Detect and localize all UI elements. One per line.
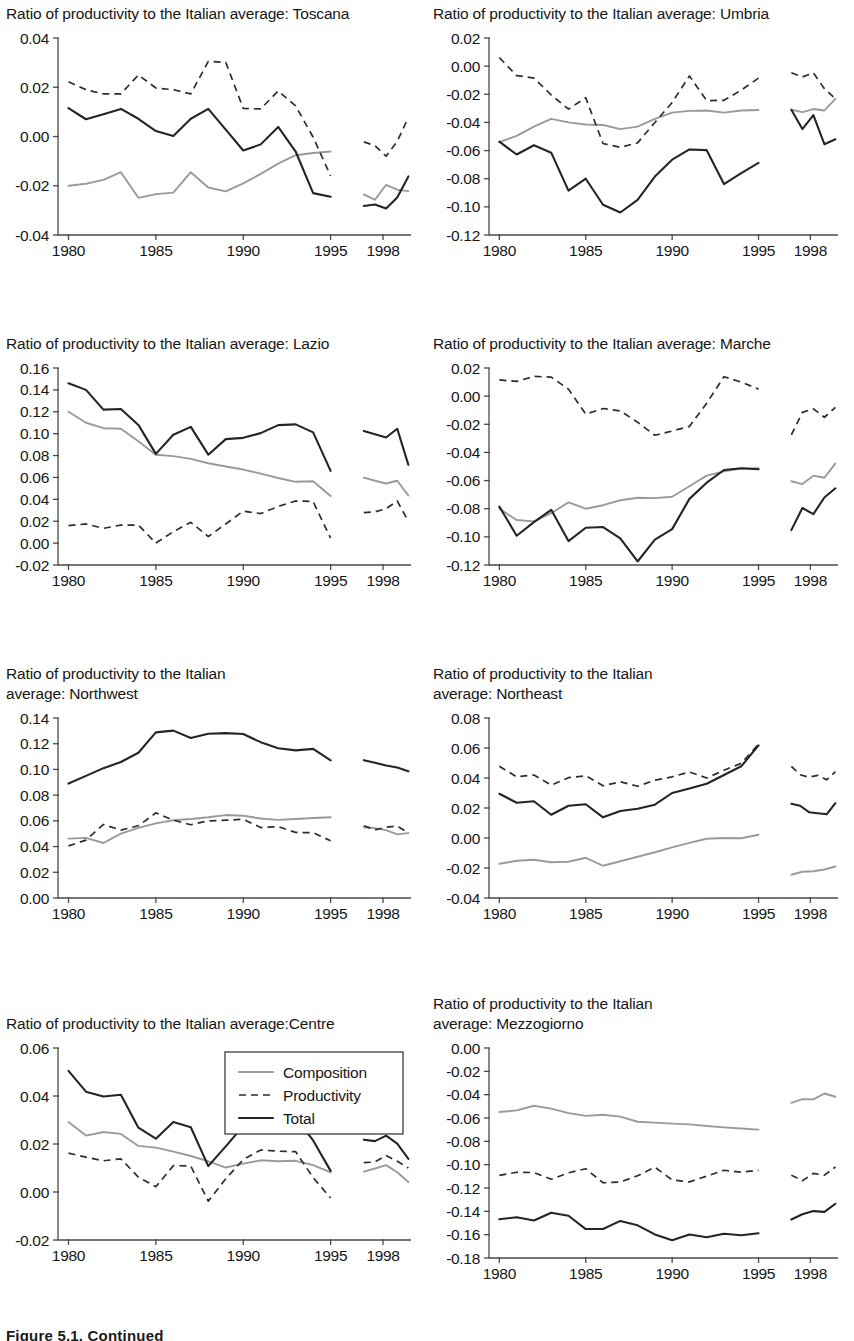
y-tick-label: 0.04 — [451, 770, 481, 787]
series-line-productivity — [791, 766, 835, 780]
y-tick-label: 0.00 — [20, 890, 50, 907]
series-line-total — [499, 468, 758, 561]
series-line-composition — [499, 468, 758, 521]
x-tick-label: 1998 — [794, 905, 827, 922]
y-tick-label: -0.12 — [446, 227, 480, 244]
y-tick-label: 0.02 — [451, 360, 480, 377]
x-tick-label: 1998 — [794, 242, 827, 259]
chart-panel-lazio: Ratio of productivity to the Italian ave… — [0, 334, 427, 599]
series-line-total — [364, 429, 409, 465]
x-tick-label: 1980 — [483, 905, 517, 922]
plot-area-centre: 0.060.040.020.00-0.021980198519901995199… — [0, 1034, 427, 1274]
x-tick-label: 1995 — [314, 905, 347, 922]
series-line-total — [364, 176, 409, 208]
y-tick-label: -0.14 — [446, 1203, 481, 1220]
x-tick-label: 1995 — [742, 905, 775, 922]
y-tick-label: 0.00 — [451, 830, 481, 847]
y-tick-label: 0.00 — [451, 388, 481, 405]
x-tick-label: 1980 — [52, 1247, 86, 1264]
y-tick-label: -0.04 — [446, 890, 481, 907]
chart-panel-centre: Ratio of productivity to the Italian ave… — [0, 1014, 427, 1274]
series-line-composition — [791, 867, 835, 875]
y-tick-label: 0.00 — [20, 535, 50, 552]
chart-panel-umbria: Ratio of productivity to the Italian ave… — [427, 4, 854, 269]
y-tick-label: -0.16 — [446, 1226, 480, 1243]
x-tick-label: 1980 — [483, 242, 517, 259]
panel-title-marche: Ratio of productivity to the Italian ave… — [427, 334, 854, 354]
chart-panel-toscana: Ratio of productivity to the Italian ave… — [0, 4, 427, 269]
panel-title-mezzogiorno: Ratio of productivity to the Italian ave… — [427, 994, 854, 1034]
y-tick-label: 0.04 — [20, 1088, 50, 1105]
legend-label-productivity: Productivity — [283, 1087, 361, 1104]
chart-panel-mezzogiorno: Ratio of productivity to the Italian ave… — [427, 994, 854, 1292]
x-tick-label: 1998 — [794, 572, 827, 589]
y-tick-label: -0.06 — [446, 472, 480, 489]
x-tick-label: 1995 — [742, 572, 775, 589]
y-tick-label: -0.02 — [15, 177, 49, 194]
x-tick-label: 1995 — [314, 572, 347, 589]
panel-title-centre: Ratio of productivity to the Italian ave… — [0, 1014, 427, 1034]
series-line-composition — [364, 1165, 409, 1182]
y-tick-label: 0.02 — [20, 513, 49, 530]
chart-panel-marche: Ratio of productivity to the Italian ave… — [427, 334, 854, 599]
x-tick-label: 1998 — [794, 1265, 827, 1282]
series-line-total — [791, 803, 835, 814]
panel-title-lazio: Ratio of productivity to the Italian ave… — [0, 334, 427, 354]
plot-area-umbria: 0.020.00-0.02-0.04-0.06-0.08-0.10-0.1219… — [427, 24, 854, 269]
x-tick-label: 1985 — [569, 572, 602, 589]
legend-label-composition: Composition — [283, 1064, 367, 1081]
series-line-composition — [364, 478, 409, 496]
x-tick-label: 1990 — [227, 1247, 261, 1264]
y-tick-label: -0.10 — [446, 198, 481, 215]
y-tick-label: -0.02 — [15, 1232, 49, 1249]
series-line-productivity — [499, 744, 758, 786]
y-tick-label: 0.04 — [20, 838, 50, 855]
y-tick-label: 0.04 — [20, 491, 50, 508]
x-tick-label: 1990 — [655, 572, 689, 589]
series-line-total — [364, 760, 409, 771]
y-tick-label: -0.02 — [446, 1063, 480, 1080]
series-line-composition — [499, 110, 758, 142]
series-line-total — [791, 1204, 835, 1220]
y-tick-label: 0.12 — [20, 403, 49, 420]
plot-area-lazio: 0.160.140.120.100.080.060.040.020.00-0.0… — [0, 354, 427, 599]
series-line-productivity — [499, 58, 758, 148]
series-line-total — [499, 745, 758, 817]
x-tick-label: 1995 — [742, 1265, 775, 1282]
series-line-composition — [499, 1106, 758, 1130]
series-line-total — [499, 1213, 758, 1241]
x-tick-label: 1998 — [366, 1247, 399, 1264]
chart-legend: CompositionProductivityTotal — [225, 1052, 403, 1134]
plot-area-marche: 0.020.00-0.02-0.04-0.06-0.08-0.10-0.1219… — [427, 354, 854, 599]
x-tick-label: 1980 — [52, 905, 86, 922]
panel-title-northwest: Ratio of productivity to the Italian ave… — [0, 664, 427, 704]
y-tick-label: -0.04 — [446, 1086, 481, 1103]
x-tick-label: 1985 — [139, 905, 172, 922]
y-tick-label: -0.12 — [446, 1180, 480, 1197]
x-tick-label: 1985 — [139, 1247, 172, 1264]
series-line-composition — [791, 463, 835, 484]
series-line-productivity — [364, 501, 409, 521]
y-tick-label: 0.02 — [451, 30, 480, 47]
series-line-productivity — [499, 1167, 758, 1183]
y-tick-label: 0.00 — [20, 1184, 50, 1201]
y-tick-label: 0.00 — [451, 1040, 481, 1057]
series-line-composition — [68, 815, 330, 843]
x-tick-label: 1985 — [569, 1265, 602, 1282]
y-tick-label: 0.02 — [20, 79, 49, 96]
y-tick-label: -0.04 — [446, 114, 481, 131]
series-line-total — [791, 488, 835, 530]
y-tick-label: 0.14 — [20, 381, 50, 398]
legend-label-total: Total — [283, 1110, 315, 1127]
x-tick-label: 1980 — [483, 572, 517, 589]
y-tick-label: 0.04 — [20, 30, 50, 47]
y-tick-label: 0.08 — [451, 710, 480, 727]
x-tick-label: 1995 — [314, 1247, 347, 1264]
series-line-total — [68, 108, 330, 197]
plot-area-toscana: 0.040.020.00-0.02-0.04198019851990199519… — [0, 24, 427, 269]
plot-area-northwest: 0.140.120.100.080.060.040.020.0019801985… — [0, 704, 427, 932]
chart-panel-northeast: Ratio of productivity to the Italian ave… — [427, 664, 854, 932]
x-tick-label: 1998 — [366, 905, 399, 922]
y-tick-label: -0.06 — [446, 1110, 480, 1127]
y-tick-label: -0.10 — [446, 528, 481, 545]
